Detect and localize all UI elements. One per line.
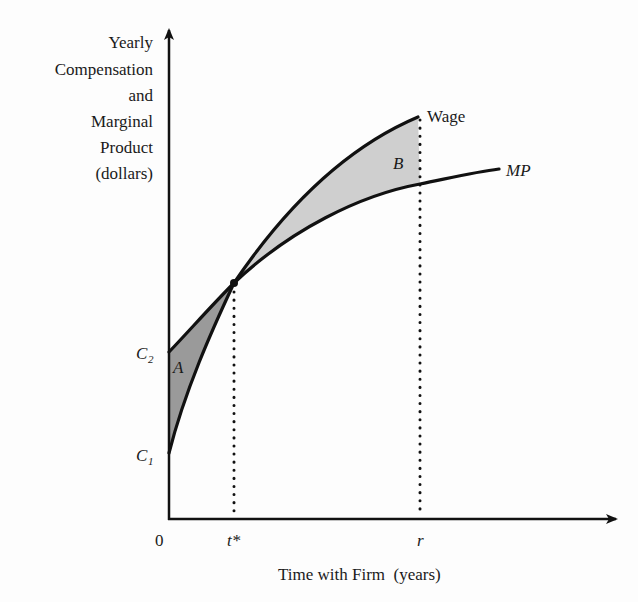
x-tick-t-star: t*: [227, 531, 241, 550]
intersection-point: [230, 279, 238, 287]
y-tick-c2: C 2: [136, 344, 154, 365]
mp-curve-label: MP: [505, 161, 531, 180]
wage-curve-label: Wage: [427, 107, 465, 126]
svg-text:Product: Product: [100, 138, 153, 157]
origin-label: 0: [155, 531, 164, 550]
x-tick-r: r: [417, 531, 424, 550]
svg-text:Compensation: Compensation: [55, 60, 154, 79]
area-b-label: B: [393, 154, 404, 173]
y-axis-label: Yearly Compensation and Marginal Product…: [55, 33, 154, 183]
wage-vs-marginal-product-diagram: Yearly Compensation and Marginal Product…: [0, 0, 638, 602]
svg-text:2: 2: [148, 353, 154, 365]
y-tick-c1: C 1: [136, 446, 154, 467]
svg-text:1: 1: [148, 455, 154, 467]
area-a-label: A: [172, 358, 184, 377]
svg-text:C: C: [136, 446, 148, 465]
x-axis-label: Time with Firm (years): [278, 565, 441, 584]
diagram-canvas: Yearly Compensation and Marginal Product…: [0, 0, 638, 602]
svg-text:(dollars): (dollars): [95, 164, 153, 183]
svg-text:Yearly: Yearly: [108, 33, 153, 52]
svg-text:and: and: [128, 86, 153, 105]
svg-text:Marginal: Marginal: [91, 112, 153, 131]
svg-text:C: C: [136, 344, 148, 363]
